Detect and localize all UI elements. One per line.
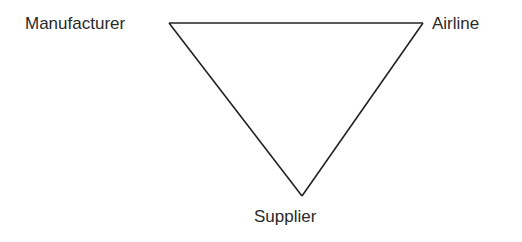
node-label-supplier: Supplier <box>254 208 316 225</box>
diagram-canvas: Manufacturer Airline Supplier <box>0 0 522 242</box>
edge-supplier-manufacturer <box>169 23 302 196</box>
triangle-diagram <box>0 0 522 242</box>
node-label-airline: Airline <box>432 15 479 32</box>
node-label-manufacturer: Manufacturer <box>25 15 125 32</box>
edge-airline-supplier <box>302 23 423 196</box>
